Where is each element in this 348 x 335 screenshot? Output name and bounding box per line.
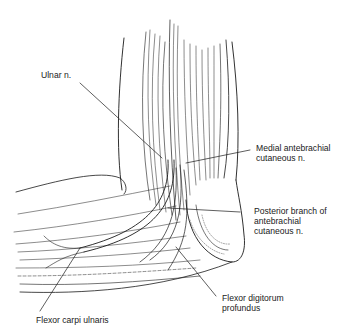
- label-flexor-digitorum-profundus: Flexor digitorum profundus: [222, 293, 284, 313]
- leader-ulnar: [80, 83, 162, 158]
- label-posterior-branch: Posterior branch of antebrachial cutaneo…: [254, 206, 327, 236]
- upper-arm: [118, 20, 244, 262]
- label-medial-antebrachial-cutaneous-nerve: Medial antebrachial cutaneous n.: [256, 143, 331, 163]
- label-ulnar-nerve: Ulnar n.: [41, 70, 71, 80]
- elbow-illustration: [0, 0, 348, 335]
- forearm: [14, 175, 232, 292]
- anatomy-figure: Ulnar n. Medial antebrachial cutaneous n…: [0, 0, 348, 335]
- leader-medial-antebrachial: [186, 150, 250, 163]
- leader-posterior-branch: [168, 208, 240, 212]
- label-flexor-carpi-ulnaris: Flexor carpi ulnaris: [36, 315, 109, 325]
- leader-lines: [40, 83, 250, 311]
- leader-fdp: [176, 247, 216, 296]
- leader-fcu: [40, 248, 80, 311]
